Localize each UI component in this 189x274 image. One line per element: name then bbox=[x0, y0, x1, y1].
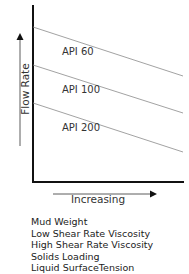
api-60-label: API 60 bbox=[62, 46, 94, 57]
api-100-line bbox=[33, 65, 183, 113]
api-100-label: API 100 bbox=[62, 84, 100, 95]
variable-item: Mud Weight bbox=[31, 216, 153, 228]
api-60-line bbox=[33, 27, 183, 76]
variable-item: Liquid SurfaceTension bbox=[31, 262, 153, 274]
x-axis-label: Increasing bbox=[60, 193, 136, 205]
api-200-line bbox=[33, 103, 183, 152]
api-200-label: API 200 bbox=[62, 122, 100, 133]
x-variables-list: Mud Weight Low Shear Rate Viscosity High… bbox=[31, 216, 153, 274]
y-axis-label: Flow Rate bbox=[19, 59, 31, 119]
variable-item: Low Shear Rate Viscosity bbox=[31, 228, 153, 240]
variable-item: Solids Loading bbox=[31, 251, 153, 263]
variable-item: High Shear Rate Viscosity bbox=[31, 239, 153, 251]
